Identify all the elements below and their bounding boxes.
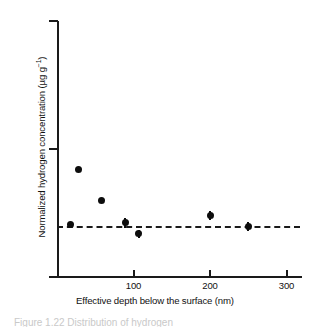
x-axis-tick-100 bbox=[133, 270, 135, 278]
data-point bbox=[98, 197, 105, 204]
data-point bbox=[122, 219, 129, 226]
data-point bbox=[135, 230, 142, 237]
x-axis-tick-label-200: 200 bbox=[195, 281, 225, 291]
data-point bbox=[207, 212, 214, 219]
y-axis-tick-1000 bbox=[49, 148, 58, 150]
x-axis-tick-200 bbox=[209, 270, 211, 278]
y-axis-tick-100 bbox=[49, 276, 58, 278]
y-axis-title-superscript: −1 bbox=[35, 60, 42, 67]
x-axis-line bbox=[57, 276, 302, 278]
figure-caption-fragment: Figure 1.22 Distribution of hydrogen bbox=[14, 317, 294, 327]
y-axis-tick-10000 bbox=[49, 20, 58, 22]
data-point bbox=[245, 223, 252, 230]
reference-dashed-line bbox=[57, 226, 300, 228]
y-axis-title-tail: ) bbox=[36, 57, 47, 60]
data-point bbox=[75, 166, 82, 173]
x-axis-title: Effective depth below the surface (nm) bbox=[0, 295, 310, 306]
y-axis-title-text: Normalized hydrogen concentration (µg g bbox=[36, 67, 47, 237]
y-axis-title: Normalized hydrogen concentration (µg g−… bbox=[33, 17, 47, 277]
figure-hydrogen-depth-profile: 102 103 104 100 200 300 Effective depth … bbox=[0, 0, 310, 327]
x-axis-tick-label-100: 100 bbox=[119, 281, 149, 291]
x-axis-tick-label-300: 300 bbox=[272, 281, 302, 291]
x-axis-tick-300 bbox=[286, 270, 288, 278]
